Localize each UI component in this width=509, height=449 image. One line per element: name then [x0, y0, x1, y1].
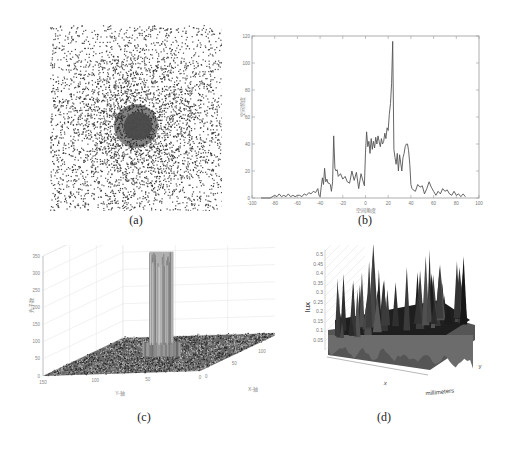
speckle-center-disk: [124, 112, 152, 140]
wall-grid-line: [325, 245, 365, 269]
y-tick-label: 100: [92, 378, 100, 383]
y-tick-label: 60: [245, 115, 251, 120]
y-tick-label: 0: [199, 375, 202, 380]
y-tick-label: 80: [245, 88, 251, 93]
x-tick-label: -100: [247, 201, 257, 206]
caption-b: (b): [345, 213, 385, 228]
z-axis-label: lux: [303, 302, 312, 312]
panel-c-surface-plot: 050100150200250300350光子数0501001500501001…: [25, 245, 275, 415]
series-line-profile: [261, 41, 465, 198]
z-tick-label: 0.2: [316, 308, 323, 314]
x-axis-label: X-轴: [248, 386, 258, 393]
panel-b-line-chart: -100-80-60-40-20020406080100020406080100…: [240, 25, 495, 220]
z-tick-label: 0.3: [316, 289, 323, 295]
y-tick-label: 0: [247, 196, 250, 201]
axes-box: [252, 36, 479, 198]
x-tick-label: -20: [340, 201, 347, 206]
y-tick-label: 50: [145, 377, 151, 382]
caption-a: (a): [116, 213, 156, 228]
y-axis-label: Y-轴: [115, 390, 125, 397]
z-tick-label: 0.15: [313, 318, 323, 324]
surface-plot-c: 050100150200250300350光子数0501001500501001…: [25, 245, 275, 415]
z-tick-label: 0: [37, 374, 40, 379]
z-tick-label: 100: [32, 339, 40, 344]
caption-c: (c): [124, 410, 164, 425]
x-tick-label: 60: [431, 201, 437, 206]
z-tick-label: 0.05: [313, 337, 323, 343]
y-axis-label: y: [479, 363, 482, 369]
x-tick-label: 0: [364, 201, 367, 206]
caption-d: (d): [364, 410, 404, 425]
z-tick-label: 50: [35, 356, 41, 361]
x-tick-label: 80: [454, 201, 460, 206]
surface-spike: [403, 267, 410, 330]
y-tick-label: 100: [242, 61, 250, 66]
wall-grid-line: [325, 256, 365, 296]
wall-grid-line: [325, 247, 365, 287]
wall-grid-line: [325, 245, 365, 251]
right-wall: [123, 245, 275, 338]
unit-label: millimeters: [425, 388, 454, 395]
z-tick-label: 0.1: [316, 327, 323, 333]
x-tick-label: 40: [408, 201, 414, 206]
x-tick-label: 100: [475, 201, 483, 206]
surface-body: [328, 245, 475, 370]
z-tick-label: 0.5: [316, 251, 323, 257]
x-tick-label: 100: [258, 349, 266, 354]
x-tick-label: 20: [386, 201, 392, 206]
z-tick-label: 250: [32, 288, 40, 293]
surface-plot-d: 0.050.10.150.20.250.30.350.40.450.5luxxy…: [290, 245, 500, 395]
x-tick-label: -60: [294, 201, 301, 206]
z-tick-label: 0.45: [313, 261, 323, 267]
x-tick-label: 0: [205, 374, 208, 379]
x-tick-label: -40: [317, 201, 324, 206]
y-tick-label: 120: [242, 34, 250, 39]
z-tick-label: 350: [32, 254, 40, 259]
panel-d-surface-plot: 0.050.10.150.20.250.30.350.40.450.5luxxy…: [290, 245, 500, 395]
z-tick-label: 0.25: [313, 299, 323, 305]
y-tick-label: 20: [245, 169, 251, 174]
x-axis-label: x: [383, 380, 387, 386]
x-tick-label: -80: [271, 201, 278, 206]
z-tick-label: 0.35: [313, 280, 323, 286]
y-tick-label: 150: [39, 380, 47, 385]
z-tick-label: 300: [32, 271, 40, 276]
z-tick-label: 150: [32, 322, 40, 327]
y-tick-label: 40: [245, 142, 251, 147]
z-axis-label: 光子数: [28, 298, 35, 313]
column-base: [143, 343, 181, 357]
x-tick-label: 50: [232, 361, 238, 366]
line-chart: -100-80-60-40-20020406080100020406080100…: [240, 25, 495, 220]
speckle-image: [50, 25, 222, 211]
panel-a-speckle-image: [50, 25, 222, 211]
surface-spike: [392, 282, 399, 326]
wall-grid-line: [325, 245, 365, 278]
z-tick-label: 0.4: [316, 270, 323, 276]
